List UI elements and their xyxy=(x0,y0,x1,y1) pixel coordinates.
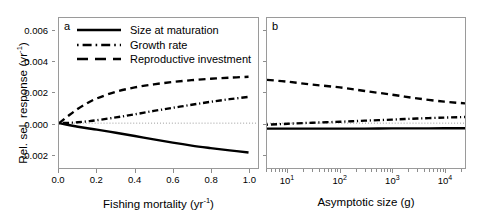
y-tick-label: 0.006 xyxy=(24,24,48,35)
x-tick-label: 1.0 xyxy=(243,174,256,185)
y-axis-ticks: 0.0060.0040.0020.000-0.002 xyxy=(0,17,55,169)
x-tick-mark xyxy=(287,169,288,173)
panel-a-x-axis-label-tail: ) xyxy=(210,198,214,210)
y-tick-mark xyxy=(263,155,267,156)
x-tick-mark-minor xyxy=(331,169,332,172)
x-tick-mark-minor xyxy=(390,169,391,172)
x-tick-mark xyxy=(96,169,97,173)
series-line-reproductive-investment xyxy=(267,80,465,104)
x-tick-mark-minor xyxy=(319,169,320,172)
y-tick-mark xyxy=(52,124,56,125)
x-tick-mark-minor xyxy=(335,169,336,172)
y-tick-mark xyxy=(52,92,56,93)
legend: Size at maturation Growth rate Reproduct… xyxy=(75,23,251,67)
x-tick-mark-minor xyxy=(266,169,267,172)
x-tick-mark-minor xyxy=(387,169,388,172)
x-tick-mark-minor xyxy=(365,169,366,172)
x-tick-label: 0.4 xyxy=(128,174,141,185)
panel-b-tag: b xyxy=(272,20,278,32)
y-tick-label: 0.004 xyxy=(24,55,48,66)
x-tick-mark-minor xyxy=(324,169,325,172)
figure-root: Rel. sel. response (yr-1) 0.0060.0040.00… xyxy=(0,0,478,223)
x-tick-mark-minor xyxy=(461,169,462,172)
x-tick-mark-minor xyxy=(285,169,286,172)
x-tick-mark-minor xyxy=(376,169,377,172)
legend-item: Reproductive investment xyxy=(75,52,251,67)
x-tick-mark-minor xyxy=(433,169,434,172)
x-tick-mark-minor xyxy=(275,169,276,172)
x-tick-mark xyxy=(249,169,250,173)
x-tick-label: 0.0 xyxy=(51,174,64,185)
x-tick-mark xyxy=(392,169,393,173)
panel-b: b xyxy=(266,17,466,169)
x-tick-mark-minor xyxy=(271,169,272,172)
dash-dot-line-key xyxy=(75,39,123,51)
x-tick-mark xyxy=(211,169,212,173)
panel-a-x-axis-label: Fishing mortality (yr-1) xyxy=(58,196,259,210)
panel-b-x-axis: 101102103104 xyxy=(266,169,466,197)
x-tick-mark-minor xyxy=(303,169,304,172)
y-tick-mark xyxy=(52,61,56,62)
x-tick-mark-minor xyxy=(282,169,283,172)
x-tick-label-base: 10 xyxy=(385,175,396,186)
x-tick-label: 103 xyxy=(385,174,399,186)
y-tick-mark xyxy=(263,61,267,62)
dashed-line-key xyxy=(75,53,123,65)
x-tick-label-exponent: 3 xyxy=(396,174,400,181)
x-tick-label-base: 10 xyxy=(280,175,291,186)
x-tick-mark-minor xyxy=(371,169,372,172)
legend-label-growth-rate: Growth rate xyxy=(123,39,187,51)
x-tick-mark-minor xyxy=(408,169,409,172)
x-tick-mark xyxy=(135,169,136,173)
y-tick-mark xyxy=(263,30,267,31)
x-tick-mark-minor xyxy=(312,169,313,172)
x-tick-label: 0.8 xyxy=(205,174,218,185)
x-tick-mark-minor xyxy=(417,169,418,172)
panel-a-tag: a xyxy=(64,20,70,32)
x-tick-label: 101 xyxy=(280,174,294,186)
y-tick-label: 0.002 xyxy=(24,87,48,98)
y-tick-label: -0.002 xyxy=(21,149,48,160)
x-tick-label: 104 xyxy=(438,174,452,186)
y-tick-mark xyxy=(263,124,267,125)
panel-a-x-axis-label-text: Fishing mortality (yr xyxy=(103,198,203,210)
x-tick-mark-minor xyxy=(356,169,357,172)
x-tick-mark-minor xyxy=(440,169,441,172)
panel-b-plot-area xyxy=(267,18,465,168)
x-tick-label-exponent: 1 xyxy=(290,174,294,181)
x-tick-label-exponent: 2 xyxy=(343,174,347,181)
x-tick-mark-minor xyxy=(381,169,382,172)
x-tick-label: 0.2 xyxy=(90,174,103,185)
x-tick-mark xyxy=(340,169,341,173)
panel-b-x-axis-label: Asymptotic size (g) xyxy=(266,196,466,208)
legend-item: Growth rate xyxy=(75,38,251,53)
y-tick-mark xyxy=(52,155,56,156)
legend-label-size-at-maturation: Size at maturation xyxy=(123,24,219,36)
panel-a: a Size at maturation Growth rate Reprodu… xyxy=(58,17,259,169)
x-tick-mark xyxy=(173,169,174,173)
x-tick-label-base: 10 xyxy=(332,175,343,186)
x-tick-mark-minor xyxy=(328,169,329,172)
y-tick-mark xyxy=(263,92,267,93)
x-tick-label-base: 10 xyxy=(438,175,449,186)
panel-a-x-axis: 0.00.20.40.60.81.0 xyxy=(58,169,259,197)
x-tick-mark xyxy=(58,169,59,173)
x-tick-mark-minor xyxy=(337,169,338,172)
x-tick-mark-minor xyxy=(429,169,430,172)
legend-item: Size at maturation xyxy=(75,23,251,38)
y-tick-mark xyxy=(52,30,56,31)
x-tick-mark-minor xyxy=(424,169,425,172)
x-tick-mark-minor xyxy=(437,169,438,172)
x-tick-mark-minor xyxy=(384,169,385,172)
legend-label-reproductive-investment: Reproductive investment xyxy=(123,53,251,65)
x-tick-label: 0.6 xyxy=(166,174,179,185)
series-line-size-at-maturation xyxy=(59,123,249,152)
x-tick-label: 102 xyxy=(332,174,346,186)
solid-line-key xyxy=(75,24,123,36)
x-tick-label-exponent: 4 xyxy=(448,174,452,181)
series-line-growth-rate xyxy=(59,97,249,123)
x-tick-mark xyxy=(445,169,446,173)
x-tick-mark-minor xyxy=(443,169,444,172)
y-tick-label: 0.000 xyxy=(24,118,48,129)
x-tick-mark-minor xyxy=(279,169,280,172)
